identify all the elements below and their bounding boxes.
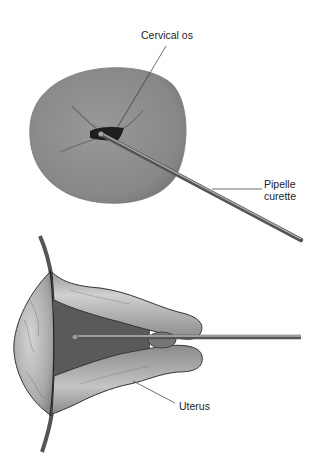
uterus-section bbox=[14, 236, 202, 452]
uterus-leader bbox=[133, 381, 175, 403]
cervical-os-label: Cervical os bbox=[141, 29, 193, 41]
pipelle-rod-bottom bbox=[72, 334, 301, 340]
uterus-label: Uterus bbox=[179, 400, 210, 412]
pipelle-biopsy-illustration bbox=[0, 0, 323, 458]
pipelle-curette-label-line1: Pipelle bbox=[264, 178, 296, 190]
pipelle-curette-label-line2: curette bbox=[264, 190, 296, 202]
